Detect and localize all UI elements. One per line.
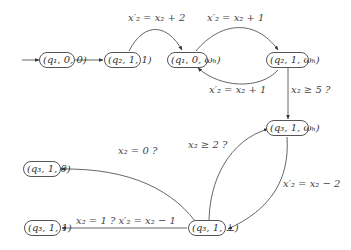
- node-q3-1-bottom: (q₃, 1, ⊥): [188, 220, 226, 236]
- edge-n5-n6: [228, 137, 287, 229]
- node-q3-1-0: (q₃, 1, 0): [23, 161, 61, 177]
- edge-label-n6-n7: x₂ = 0 ?: [118, 145, 157, 157]
- edge-label-n6-n8: x₂ = 1 ? x′₂ = x₂ − 1: [76, 215, 176, 227]
- node-q1-0-omega: (q₁, 0, ωₕ): [167, 52, 208, 68]
- edge-n3-n4: [196, 28, 278, 51]
- node-q2-1-omega: (q₂, 1, ωₕ): [266, 52, 309, 68]
- edge-label-n4-n3: x′₂ = x₂ + 1: [209, 84, 266, 96]
- node-q2-1-1: (q₂, 1, 1): [104, 52, 141, 68]
- edge-label-n3-n4: x′₂ = x₂ + 1: [207, 12, 264, 24]
- edge-label-n6-n5: x₂ ≥ 2 ?: [188, 139, 227, 151]
- node-q3-1-omega: (q₃, 1, ωₕ): [266, 120, 309, 136]
- edge-label-n2-n3: x′₂ = x₂ + 2: [128, 12, 185, 24]
- edge-n2-n3: [129, 29, 182, 51]
- node-q3-1-1: (q₃, 1, 1): [24, 220, 61, 236]
- node-q1-0-0: (q₁, 0, 0): [39, 52, 75, 68]
- edge-label-n5-n6: x′₂ = x₂ − 2: [283, 178, 340, 190]
- edge-n4-n3: [198, 68, 278, 84]
- automaton-diagram: (q₁, 0, 0) (q₂, 1, 1) (q₁, 0, ωₕ) (q₂, 1…: [0, 0, 351, 250]
- edge-label-n4-n5: x₂ ≥ 5 ?: [291, 84, 330, 96]
